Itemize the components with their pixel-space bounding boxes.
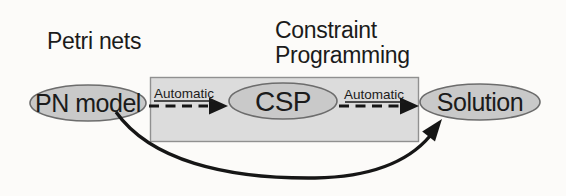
edge-label-automatic: Automatic (344, 87, 404, 102)
node-label-csp: CSP (255, 86, 311, 117)
node-solution: Solution (420, 84, 540, 120)
node-label-solution: Solution (437, 88, 523, 116)
node-label-pn-model: PN model (35, 89, 141, 117)
node-pn-model: PN model (30, 85, 146, 121)
diagram-canvas: Petri nets Constraint Programming Automa… (0, 0, 566, 196)
arrowhead-icon (422, 119, 442, 141)
petri-net-csp-flow-diagram: Petri nets Constraint Programming Automa… (0, 0, 566, 196)
petri-nets-title: Petri nets (47, 28, 141, 54)
node-csp: CSP (229, 83, 337, 119)
constraint-programming-title-line1: Constraint (275, 17, 378, 43)
edge-label-automatic: Automatic (154, 86, 214, 101)
constraint-programming-title-line2: Programming (275, 42, 410, 68)
